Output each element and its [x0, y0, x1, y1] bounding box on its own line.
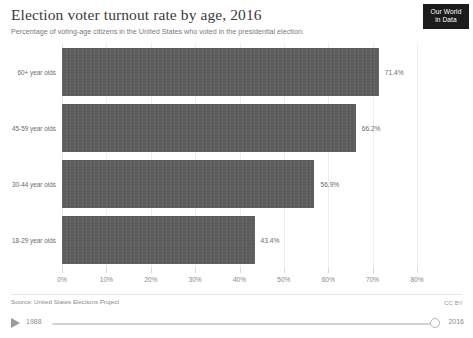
- x-tick-label: 60%: [322, 276, 335, 283]
- bar-value-label: 43.4%: [261, 237, 280, 244]
- bar-category-label: 60+ year olds: [0, 69, 56, 76]
- tick-mark-80: [417, 268, 418, 273]
- tick-mark-20: [151, 268, 152, 273]
- tick-mark-60: [328, 268, 329, 273]
- tick-mark-50: [284, 268, 285, 273]
- page-title: Election voter turnout rate by age, 2016: [11, 6, 411, 24]
- x-tick-label: 20%: [144, 276, 157, 283]
- source-note[interactable]: Source: United States Elections Project: [11, 298, 119, 305]
- bar-category-label: 45-59 year olds: [0, 125, 56, 132]
- timeline-start-year: 1988: [26, 318, 42, 325]
- our-world-in-data-logo[interactable]: Our World in Data: [423, 4, 469, 29]
- bar-category-label: 30-44 year olds: [0, 181, 56, 188]
- bar[interactable]: [62, 216, 255, 264]
- tick-mark-70: [373, 268, 374, 273]
- chart-container: Election voter turnout rate by age, 2016…: [0, 0, 473, 338]
- timeline-slider-track[interactable]: [52, 323, 436, 326]
- bar[interactable]: [62, 48, 379, 96]
- bar-row[interactable]: 30-44 year olds56.9%: [0, 156, 473, 212]
- timeline-control: 1988 2016: [0, 313, 473, 335]
- x-tick-label: 30%: [189, 276, 202, 283]
- logo-line-2: in Data: [423, 16, 469, 24]
- bar[interactable]: [62, 160, 314, 208]
- bar-row[interactable]: 45-59 year olds66.2%: [0, 100, 473, 156]
- license-note[interactable]: CC BY: [444, 299, 463, 306]
- tick-mark-10: [106, 268, 107, 273]
- x-tick-label: 10%: [100, 276, 113, 283]
- bar-value-label: 66.2%: [362, 125, 381, 132]
- chart-header: Election voter turnout rate by age, 2016…: [11, 6, 411, 37]
- logo-line-1: Our World: [423, 8, 469, 16]
- chart-subtitle: Percentage of voting-age citizens in the…: [11, 26, 411, 37]
- x-tick-label: 80%: [410, 276, 423, 283]
- footer-divider: [11, 294, 462, 295]
- bar[interactable]: [62, 104, 356, 152]
- x-axis-labels: 0%10%20%30%40%50%60%70%80%: [62, 276, 417, 290]
- x-tick-label: 40%: [233, 276, 246, 283]
- bar-value-label: 71.4%: [385, 69, 404, 76]
- bar-row[interactable]: 60+ year olds71.4%: [0, 44, 473, 100]
- x-tick-label: 50%: [277, 276, 290, 283]
- timeline-end-year: 2016: [448, 318, 464, 325]
- x-tick-label: 70%: [366, 276, 379, 283]
- bar-value-label: 56.9%: [320, 181, 339, 188]
- bar-category-label: 18-29 year olds: [0, 237, 56, 244]
- x-tick-label: 0%: [57, 276, 67, 283]
- bars-group: 60+ year olds71.4%45-59 year olds66.2%30…: [0, 44, 473, 268]
- tick-mark-40: [240, 268, 241, 273]
- axis-tick-marks: [62, 268, 417, 274]
- tick-mark-0: [62, 268, 63, 273]
- plot-area: 60+ year olds71.4%45-59 year olds66.2%30…: [0, 44, 473, 292]
- tick-mark-30: [195, 268, 196, 273]
- play-icon[interactable]: [11, 318, 20, 328]
- bar-row[interactable]: 18-29 year olds43.4%: [0, 212, 473, 268]
- timeline-slider-handle[interactable]: [430, 318, 440, 328]
